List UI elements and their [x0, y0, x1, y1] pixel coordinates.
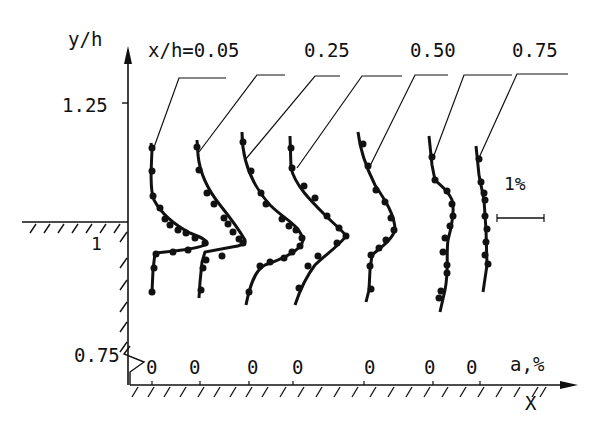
- profile-2-points: [194, 144, 247, 294]
- value-axis-label: a,%: [510, 353, 545, 375]
- station-label-075: 0.75: [512, 39, 558, 61]
- profile-3: [242, 132, 303, 305]
- scale-bar: 1%: [497, 173, 544, 222]
- station-label-050: 0.50: [410, 39, 456, 61]
- x-axis-arrow-icon: [560, 381, 578, 389]
- station-label-005: x/h=0.05: [148, 39, 240, 61]
- profile-4: [290, 136, 346, 305]
- y-tick-label-075: 0.75: [74, 344, 120, 366]
- zero-label: 0: [189, 356, 200, 378]
- y-axis: [122, 46, 132, 385]
- y-tick-label-1: 1: [91, 233, 102, 254]
- step-wall: [22, 222, 128, 352]
- scale-bar-label: 1%: [504, 173, 526, 194]
- zero-label: 0: [364, 356, 375, 378]
- y-axis-label: y/h: [68, 28, 102, 50]
- profile-3-points: [240, 139, 306, 296]
- x-axis: [130, 381, 578, 397]
- zero-label: 0: [466, 356, 477, 378]
- axis-break-icon: [124, 346, 144, 385]
- velocity-profile-chart: y/h 1.25 1 0.75 X a,% x/h=0.05 0.25 0.50…: [0, 0, 596, 433]
- x-axis-label: X: [525, 392, 537, 414]
- y-axis-arrow-icon: [124, 46, 132, 64]
- zero-label: 0: [146, 356, 157, 378]
- profile-4-points: [288, 145, 350, 292]
- leader-lines: [153, 74, 568, 168]
- zero-labels: 0 0 0 0 0 0 0: [146, 356, 477, 378]
- zero-label: 0: [292, 356, 303, 378]
- station-label-025: 0.25: [304, 39, 350, 61]
- y-tick-label-125: 1.25: [62, 94, 108, 116]
- zero-label: 0: [424, 356, 435, 378]
- zero-label: 0: [247, 356, 258, 378]
